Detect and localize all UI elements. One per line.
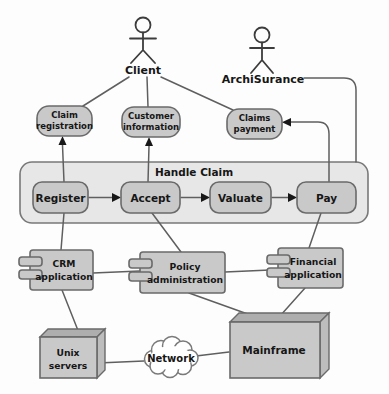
component-financial-application: Financial application — [267, 248, 343, 288]
policy-label-line2: administration — [147, 274, 223, 285]
edge-network-mainframe — [196, 352, 229, 356]
unix-box-top-face — [40, 329, 105, 337]
crm-label-line1: CRM — [53, 258, 76, 269]
edge-accept-customer-information — [148, 146, 149, 182]
diagram-svg: Client ArchiSurance Claim registration C… — [0, 0, 389, 394]
edge-policy-financial — [225, 270, 270, 272]
financial-component-tab-1 — [267, 255, 290, 264]
unix-label-line1: Unix — [56, 347, 79, 358]
claims-payment-label-line2: payment — [234, 124, 276, 134]
edge-client-claim-registration — [83, 77, 129, 106]
mainframe-box-side-face — [320, 313, 329, 378]
step-pay: Pay — [297, 182, 356, 213]
edge-financial-mainframe — [280, 288, 305, 316]
mainframe-label: Mainframe — [242, 344, 306, 356]
claims-payment-label-line1: Claims — [239, 113, 271, 123]
component-policy-administration: Policy administration — [129, 252, 225, 293]
archisurance-stick-figure-body — [250, 43, 274, 74]
archisurance-stick-figure-head — [255, 28, 270, 43]
service-claim-registration: Claim registration — [36, 106, 93, 136]
crm-label-line2: application — [35, 271, 93, 282]
unix-box-side-face — [97, 329, 105, 378]
policy-component-tab-1 — [129, 259, 152, 268]
node-mainframe: Mainframe — [230, 313, 329, 378]
edge-client-customer-information — [147, 77, 148, 107]
network-label: Network — [147, 353, 195, 364]
unix-label-line2: servers — [49, 360, 88, 371]
mainframe-box-top-face — [230, 313, 329, 322]
crm-component-tab-1 — [19, 257, 42, 266]
edge-crm-unix — [62, 290, 79, 333]
valuate-label: Valuate — [218, 192, 263, 204]
service-customer-information: Customer information — [122, 107, 180, 137]
client-stick-figure-head — [136, 18, 151, 33]
policy-administration-box — [140, 252, 225, 293]
financial-label-line2: application — [284, 269, 342, 280]
customer-information-label-line2: information — [123, 122, 179, 132]
policy-label-line1: Policy — [170, 261, 201, 272]
register-label: Register — [36, 192, 87, 204]
step-accept: Accept — [121, 182, 180, 213]
archisurance-label: ArchiSurance — [222, 73, 304, 86]
financial-label-line1: Financial — [290, 256, 337, 267]
pay-label: Pay — [316, 192, 337, 204]
archimate-diagram: Client ArchiSurance Claim registration C… — [0, 0, 389, 394]
component-crm-application: CRM application — [19, 250, 93, 290]
handle-claim-title: Handle Claim — [155, 166, 233, 178]
customer-information-label-line1: Customer — [128, 111, 175, 121]
step-register: Register — [33, 182, 88, 213]
accept-label: Accept — [130, 192, 170, 204]
node-network-cloud: Network — [145, 337, 199, 378]
actor-client: Client — [125, 18, 161, 78]
edge-archisurance-handle-claim — [304, 78, 356, 162]
arrowhead-up-claim-registration — [59, 136, 67, 145]
node-unix-servers: Unix servers — [40, 329, 105, 378]
step-valuate: Valuate — [210, 182, 271, 213]
arrowhead-left-claims-payment — [282, 118, 291, 127]
client-label: Client — [125, 64, 161, 77]
claim-registration-label-line2: registration — [36, 121, 93, 131]
claim-registration-label-line1: Claim — [51, 110, 78, 120]
service-claims-payment: Claims payment — [227, 109, 282, 139]
client-stick-figure-body — [130, 33, 156, 64]
arrowhead-up-customer-information — [145, 137, 153, 146]
actor-archisurance: ArchiSurance — [222, 28, 304, 87]
